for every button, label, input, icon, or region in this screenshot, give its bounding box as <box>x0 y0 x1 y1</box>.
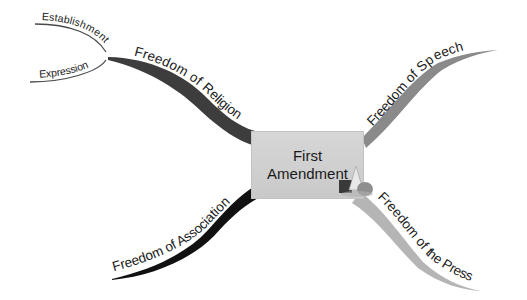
central-topic-line1: First <box>293 147 322 165</box>
branch-freedom-of-the-press[interactable]: Freedom of the Press <box>352 189 482 291</box>
base-shadow <box>341 191 373 197</box>
subbranch-establishment[interactable]: Establishment <box>35 10 112 52</box>
branch-freedom-of-association[interactable]: Freedom of Association <box>111 184 262 280</box>
branch-freedom-of-religion[interactable]: Freedom of Religion <box>108 44 255 146</box>
shapes-icon <box>335 164 375 204</box>
subbranch-expression[interactable]: Expression <box>30 58 106 82</box>
subbranch-label-establishment[interactable]: Establishment <box>42 10 113 45</box>
subbranch-line-establishment <box>35 24 106 52</box>
branch-freedom-of-speech[interactable]: Freedom of Speech <box>362 39 498 148</box>
branch-label-speech[interactable]: Freedom of Speech <box>364 39 465 129</box>
subbranch-label-expression[interactable]: Expression <box>39 58 90 80</box>
